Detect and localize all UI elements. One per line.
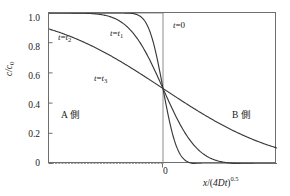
y-axis-title-denominator: c: [4, 65, 14, 69]
y-axis-tick-labels: 1.0 0.8 0.6 0.4 0.2 0: [0, 0, 46, 196]
annotation-t2-sub: 2: [68, 36, 71, 43]
y-axis-title-slash: /: [4, 69, 14, 72]
y-tick-4: 0.4: [0, 100, 40, 110]
annotation-t1-sub: 1: [120, 32, 123, 39]
curves-svg: [49, 13, 277, 164]
annotation-t3: t=t3: [94, 73, 107, 84]
annotation-t1: t=t1: [110, 28, 123, 39]
annotation-t0: t=0: [173, 20, 185, 30]
label-side-a: A 側: [61, 107, 80, 121]
figure-diffusion-profile: 1.0 0.8 0.6 0.4 0.2 0 c/c0 0 x/(4Dt)0.5 …: [0, 0, 290, 196]
x-tick-0: 0: [163, 166, 168, 176]
label-side-b: B 側: [232, 107, 251, 121]
annotation-t0-value: 0: [181, 20, 186, 30]
y-axis-title-numerator: c: [4, 72, 14, 76]
y-tick-6: 0: [0, 158, 40, 168]
y-tick-5: 0.2: [0, 129, 40, 139]
y-tick-2: 0.8: [0, 42, 40, 52]
annotation-t2: t=t2: [58, 32, 71, 43]
y-axis-title: c/c0: [4, 61, 16, 76]
y-axis-title-denominator-sub: 0: [8, 61, 16, 65]
annotation-t3-sub: 3: [104, 77, 107, 84]
x-axis-title-exponent: 0.5: [230, 175, 238, 182]
plot-area: [48, 12, 276, 163]
x-axis-title: x/(4Dt)0.5: [203, 175, 239, 188]
y-tick-1: 1.0: [0, 13, 40, 23]
x-axis-title-inner: 4Dt: [213, 178, 227, 188]
